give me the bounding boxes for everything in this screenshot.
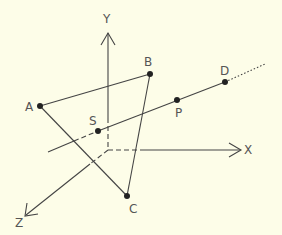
label-p: P	[175, 106, 182, 120]
x-axis-label: X	[244, 143, 252, 157]
point-b	[147, 71, 153, 77]
label-b: B	[144, 55, 152, 69]
x-axis	[108, 143, 241, 157]
triangle-abc	[40, 74, 150, 196]
point-c	[124, 193, 130, 199]
ray-spd	[48, 64, 265, 152]
label-d: D	[220, 64, 229, 78]
diagram-canvas: Y X Z A B C S P D	[0, 0, 282, 235]
z-axis	[25, 150, 108, 216]
point-a	[37, 103, 43, 109]
point-p	[174, 97, 180, 103]
z-axis-label: Z	[15, 216, 23, 230]
y-axis	[101, 33, 115, 150]
point-s	[95, 128, 101, 134]
y-axis-label: Y	[102, 12, 111, 26]
label-a: A	[25, 100, 34, 114]
label-s: S	[89, 114, 97, 128]
geometry-diagram: Y X Z A B C S P D	[0, 0, 282, 235]
label-c: C	[129, 202, 137, 216]
point-d	[222, 79, 228, 85]
